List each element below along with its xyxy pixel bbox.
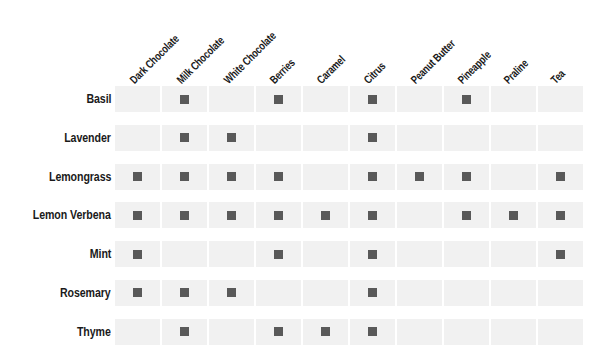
matrix-cell[interactable] [303,164,348,190]
row-cells [115,280,583,306]
pairing-mark-icon [180,211,189,220]
matrix-cell[interactable] [397,125,442,151]
matrix-cell[interactable] [491,280,536,306]
pairing-mark-icon [274,250,283,259]
matrix-cell[interactable] [256,202,301,228]
matrix-cell[interactable] [350,125,395,151]
pairing-mark-icon [462,95,471,104]
matrix-cell[interactable] [350,280,395,306]
pairing-mark-icon [180,95,189,104]
matrix-cell[interactable] [115,280,160,306]
pairing-mark-icon [133,211,142,220]
matrix-cell[interactable] [397,202,442,228]
matrix-cell[interactable] [444,125,489,151]
pairing-mark-icon [368,288,377,297]
matrix-cell[interactable] [256,86,301,112]
matrix-cell[interactable] [491,202,536,228]
column-header-citrus: Citrus [362,55,393,86]
matrix-cell[interactable] [491,86,536,112]
matrix-cell[interactable] [115,125,160,151]
matrix-cell[interactable] [162,280,207,306]
matrix-cell[interactable] [444,280,489,306]
matrix-cell[interactable] [162,86,207,112]
pairing-mark-icon [368,172,377,181]
row-label-text: Mint [89,241,111,267]
pairing-mark-icon [274,327,283,336]
matrix-cell[interactable] [350,86,395,112]
column-header-text: Citrus [362,60,388,86]
matrix-cell[interactable] [209,202,254,228]
matrix-cell[interactable] [397,319,442,345]
matrix-cell[interactable] [444,86,489,112]
row-label-text: Basil [86,86,111,112]
column-header-praline: Praline [502,51,537,86]
matrix-cell[interactable] [538,202,583,228]
matrix-cell[interactable] [115,319,160,345]
matrix-cell[interactable] [538,86,583,112]
matrix-cell[interactable] [538,125,583,151]
matrix-cell[interactable] [350,164,395,190]
row-label-lemongrass: Lemongrass [38,164,111,190]
row-label-rosemary: Rosemary [51,280,111,306]
matrix-row: Basil [115,86,583,125]
matrix-cell[interactable] [209,86,254,112]
matrix-cell[interactable] [350,202,395,228]
pairing-mark-icon [368,250,377,259]
matrix-cell[interactable] [256,280,301,306]
matrix-cell[interactable] [209,319,254,345]
matrix-cell[interactable] [162,241,207,267]
matrix-cell[interactable] [162,202,207,228]
matrix-cell[interactable] [397,241,442,267]
row-label-lavender: Lavender [56,125,111,151]
matrix-cell[interactable] [256,319,301,345]
matrix-cell[interactable] [115,241,160,267]
matrix-cell[interactable] [444,164,489,190]
matrix-cell[interactable] [397,280,442,306]
matrix-cell[interactable] [444,241,489,267]
matrix-cell[interactable] [491,319,536,345]
matrix-row: Lavender [115,125,583,164]
matrix-cell[interactable] [303,241,348,267]
row-cells [115,202,583,228]
matrix-cell[interactable] [397,86,442,112]
matrix-cell[interactable] [115,202,160,228]
matrix-cell[interactable] [491,125,536,151]
matrix-cell[interactable] [256,125,301,151]
matrix-cell[interactable] [303,319,348,345]
pairing-mark-icon [556,250,565,259]
pairing-mark-icon [368,327,377,336]
matrix-cell[interactable] [209,164,254,190]
matrix-cell[interactable] [538,319,583,345]
matrix-cell[interactable] [209,241,254,267]
row-cells [115,164,583,190]
row-label-text: Lavender [64,125,111,151]
matrix-cell[interactable] [162,125,207,151]
matrix-cell[interactable] [256,164,301,190]
matrix-cell[interactable] [350,319,395,345]
matrix-cell[interactable] [115,164,160,190]
matrix-cell[interactable] [444,202,489,228]
pairing-mark-icon [274,211,283,220]
matrix-cell[interactable] [491,164,536,190]
matrix-cell[interactable] [303,280,348,306]
matrix-cell[interactable] [303,86,348,112]
matrix-cell[interactable] [115,86,160,112]
column-header-text: Peanut Butter [408,37,457,86]
matrix-cell[interactable] [538,280,583,306]
matrix-cell[interactable] [303,202,348,228]
matrix-cell[interactable] [256,241,301,267]
matrix-cell[interactable] [444,319,489,345]
column-header-text: Berries [268,56,298,86]
matrix-cell[interactable] [303,125,348,151]
matrix-cell[interactable] [397,164,442,190]
matrix-cell[interactable] [350,241,395,267]
matrix-cell[interactable] [209,280,254,306]
matrix-cell[interactable] [162,319,207,345]
row-label-text: Rosemary [60,280,111,306]
matrix-cell[interactable] [538,241,583,267]
pairing-mark-icon [180,133,189,142]
matrix-cell[interactable] [162,164,207,190]
matrix-cell[interactable] [491,241,536,267]
matrix-cell[interactable] [538,164,583,190]
matrix-cell[interactable] [209,125,254,151]
